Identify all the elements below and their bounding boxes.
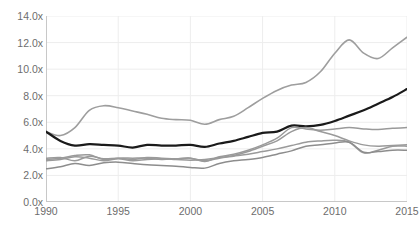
plot-svg [46, 16, 407, 202]
chart-title [0, 0, 415, 11]
series-line-top-line [46, 37, 407, 135]
x-axis-tick-label: 2000 [179, 205, 202, 217]
y-axis-tick-label: 8.0x [1, 91, 43, 101]
y-axis-labels: 0.0x2.0x4.0x6.0x8.0x10.0x12.0x14.0x [0, 16, 43, 202]
y-axis-tick-label: 6.0x [1, 117, 43, 127]
x-axis-tick-label: 2005 [251, 205, 274, 217]
x-axis-tick-label: 2010 [323, 205, 346, 217]
y-axis-tick-label: 12.0x [1, 38, 43, 48]
x-axis-tick-label: 1990 [34, 205, 57, 217]
x-axis-labels: 199019952000200520102015 [46, 205, 407, 225]
x-axis-tick-label: 2015 [395, 205, 418, 217]
y-axis-tick-label: 10.0x [1, 64, 43, 74]
y-axis-tick-label: 14.0x [1, 11, 43, 21]
y-axis-tick-label: 2.0x [1, 170, 43, 180]
x-axis-tick-label: 1995 [107, 205, 130, 217]
y-axis-tick-label: 4.0x [1, 144, 43, 154]
plot-area [46, 16, 407, 202]
